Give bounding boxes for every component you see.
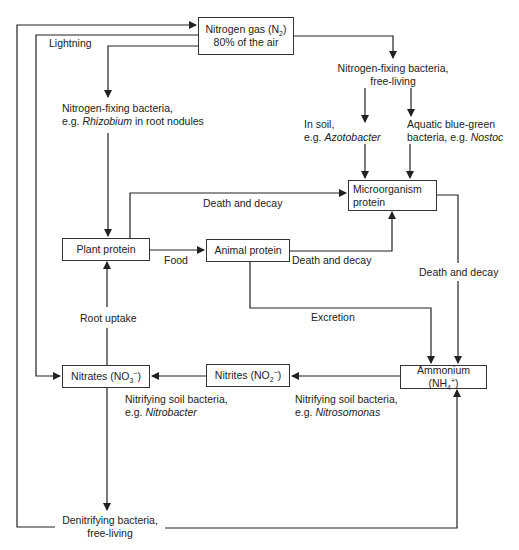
denitrifying-line2: free-living	[56, 527, 164, 540]
label-nitrosomonas: Nitrifying soil bacteria, e.g. Nitrosomo…	[295, 393, 398, 419]
label-denitrifying: Denitrifying bacteria, free-living	[56, 514, 164, 540]
node-nitrites: Nitrites (NO2−)	[206, 364, 290, 387]
arrow-animal-to-micro	[290, 212, 392, 251]
nitrates-paren: )	[137, 370, 141, 382]
aquatic-prefix: bacteria, e.g.	[407, 131, 471, 143]
node-microorganism-protein: Microorganism protein	[348, 180, 437, 211]
microorganism-label-line2: protein	[353, 196, 385, 209]
aquatic-line2: bacteria, e.g. Nostoc	[407, 131, 503, 144]
nitrobacter-line2: e.g. Nitrobacter	[125, 406, 228, 419]
node-nitrates: Nitrates (NO3−)	[62, 365, 150, 388]
rhizobium-prefix: e.g.	[62, 115, 82, 127]
label-death-decay-plant: Death and decay	[203, 197, 282, 210]
nitrobacter-prefix: e.g.	[125, 406, 145, 418]
rhizobium-genus: Rhizobium	[82, 115, 132, 127]
nitrates-label: Nitrates (NO	[71, 370, 129, 382]
nitrosomonas-prefix: e.g.	[295, 406, 315, 418]
nitrogen-gas-subtitle: 80% of the air	[214, 36, 279, 49]
label-death-decay-micro: Death and decay	[419, 266, 498, 279]
free-living-line2: free-living	[337, 75, 449, 88]
nitrites-label: Nitrites (NO	[215, 369, 270, 381]
plant-protein-label: Plant protein	[77, 243, 136, 256]
label-root-uptake: Root uptake	[80, 312, 137, 325]
nitrites-subscript: 2	[270, 376, 274, 383]
rhizobium-suffix: in root nodules	[132, 115, 204, 127]
ammonium-label: Ammonium (NH	[417, 364, 470, 389]
node-plant-protein: Plant protein	[62, 238, 150, 261]
label-azotobacter: In soil, e.g. Azotobacter	[304, 118, 380, 144]
nitrosomonas-genus: Nitrosomonas	[315, 406, 380, 418]
label-lightning: Lightning	[49, 37, 92, 50]
animal-protein-label: Animal protein	[214, 244, 281, 257]
label-rhizobium: Nitrogen-fixing bacteria, e.g. Rhizobium…	[62, 102, 204, 128]
label-excretion: Excretion	[311, 311, 355, 324]
rhizobium-line2: e.g. Rhizobium in root nodules	[62, 115, 204, 128]
soil-line2: e.g. Azotobacter	[304, 131, 380, 144]
ammonium-subscript: 4	[447, 384, 451, 391]
arrow-n2-to-rhizobium	[108, 46, 198, 97]
label-death-decay-animal: Death and decay	[292, 254, 371, 267]
nitrogen-gas-paren: )	[283, 23, 287, 35]
nitrosomonas-line1: Nitrifying soil bacteria,	[295, 393, 398, 406]
arrow-n2-to-free-living	[293, 36, 393, 58]
label-free-living: Nitrogen-fixing bacteria, free-living	[337, 62, 449, 88]
node-ammonium: Ammonium (NH4+)	[400, 365, 487, 389]
aquatic-line1: Aquatic blue-green	[407, 118, 503, 131]
arrow-micro-to-ammonium	[437, 195, 458, 263]
denitrifying-line1: Denitrifying bacteria,	[56, 514, 164, 527]
soil-prefix: e.g.	[304, 131, 324, 143]
microorganism-label: Microorganism	[353, 183, 422, 196]
nitrates-subscript: 3	[129, 377, 133, 384]
nitrobacter-genus: Nitrobacter	[145, 406, 196, 418]
label-nitrobacter: Nitrifying soil bacteria, e.g. Nitrobact…	[125, 393, 228, 419]
nitrogen-gas-label: Nitrogen gas (N	[206, 23, 280, 35]
nitrites-paren: )	[278, 369, 282, 381]
nitrobacter-line1: Nitrifying soil bacteria,	[125, 393, 228, 406]
nitrosomonas-line2: e.g. Nitrosomonas	[295, 406, 398, 419]
rhizobium-line1: Nitrogen-fixing bacteria,	[62, 102, 204, 115]
label-food: Food	[164, 254, 188, 267]
label-nostoc: Aquatic blue-green bacteria, e.g. Nostoc	[407, 118, 503, 144]
node-nitrogen-gas: Nitrogen gas (N2) 80% of the air	[198, 17, 294, 55]
soil-line1: In soil,	[304, 118, 380, 131]
azotobacter-genus: Azotobacter	[324, 131, 380, 143]
nostoc-genus: Nostoc	[471, 131, 504, 143]
node-animal-protein: Animal protein	[206, 239, 290, 262]
ammonium-paren: )	[455, 377, 459, 389]
free-living-line1: Nitrogen-fixing bacteria,	[337, 62, 449, 75]
